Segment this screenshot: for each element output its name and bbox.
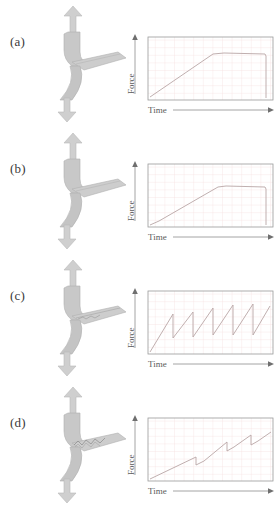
- panel-d: (d): [0, 381, 279, 506]
- schematic-b: [50, 131, 135, 251]
- arrow-up-icon: [132, 34, 138, 40]
- arrow-up-icon: [64, 133, 82, 161]
- plot-b: Force Time: [126, 159, 276, 247]
- y-axis-d: Force: [126, 415, 138, 475]
- arrow-up-icon: [64, 260, 82, 288]
- schematic-c: [50, 258, 135, 378]
- arrow-right-icon: [268, 488, 274, 494]
- schematic-a: [50, 4, 135, 124]
- arrow-right-icon: [268, 107, 274, 113]
- panel-label-c: (c): [10, 288, 25, 304]
- arrow-up-icon: [132, 415, 138, 421]
- peel-strip-lower: [60, 320, 82, 354]
- arrow-down-icon: [58, 352, 76, 376]
- plot-d: Force Time: [126, 413, 276, 501]
- plot-area-d: [148, 418, 273, 481]
- panel-label-a: (a): [10, 34, 25, 50]
- schematic-d: [50, 385, 135, 505]
- plot-c: Force Time: [126, 286, 276, 374]
- x-axis-label-d: Time: [148, 486, 167, 496]
- arrow-up-icon: [132, 288, 138, 294]
- y-axis-label-b: Force: [126, 201, 136, 222]
- y-axis-b: Force: [126, 161, 138, 221]
- arrow-right-icon: [268, 234, 274, 240]
- peel-strip-lower: [60, 193, 82, 227]
- arrow-up-icon: [64, 6, 82, 34]
- y-axis-c: Force: [126, 288, 138, 348]
- x-axis-d: Time: [148, 486, 274, 496]
- panel-label-d: (d): [10, 415, 26, 431]
- peel-strip-lower: [60, 66, 82, 100]
- arrow-down-icon: [58, 225, 76, 249]
- x-axis-a: Time: [148, 105, 274, 115]
- panel-c: (c): [0, 254, 279, 379]
- arrow-right-icon: [268, 361, 274, 367]
- y-axis-label-d: Force: [126, 455, 136, 476]
- arrow-up-icon: [64, 387, 82, 415]
- plot-area-c: [148, 291, 273, 354]
- panel-b: (b): [0, 127, 279, 252]
- panel-label-b: (b): [10, 161, 26, 177]
- plot-area-b: [148, 164, 273, 227]
- panel-a: (a): [0, 0, 279, 125]
- x-axis-label-b: Time: [148, 232, 167, 242]
- arrow-down-icon: [58, 98, 76, 122]
- arrow-up-icon: [132, 161, 138, 167]
- x-axis-b: Time: [148, 232, 274, 242]
- arrow-down-icon: [58, 479, 76, 503]
- x-axis-label-a: Time: [148, 105, 167, 115]
- peel-strip-lower: [60, 447, 82, 481]
- plot-area-a: [148, 37, 273, 100]
- y-axis-a: Force: [126, 34, 138, 94]
- x-axis-label-c: Time: [148, 359, 167, 369]
- plot-a: Force Time: [126, 32, 276, 120]
- x-axis-c: Time: [148, 359, 274, 369]
- y-axis-label-c: Force: [126, 328, 136, 349]
- y-axis-label-a: Force: [126, 74, 136, 95]
